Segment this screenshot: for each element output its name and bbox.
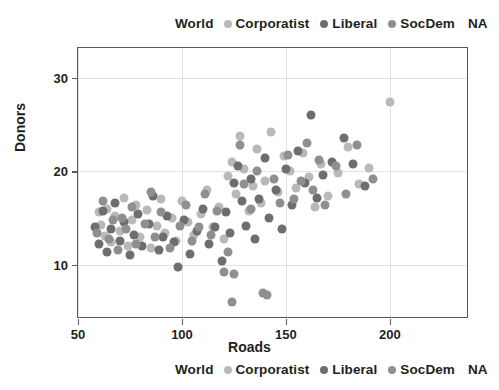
data-point [290, 195, 299, 204]
data-point [342, 189, 351, 198]
data-point [207, 230, 216, 239]
data-point [175, 221, 184, 230]
legend-label-corporatist: Corporatist [236, 16, 310, 31]
legend-swatch-liberal-bottom [320, 366, 328, 374]
y-axis-tick [72, 171, 78, 172]
data-point [130, 230, 139, 239]
data-point [225, 229, 234, 238]
data-point [219, 268, 228, 277]
data-point [186, 249, 195, 258]
data-point [105, 234, 114, 243]
legend-title-bottom: World [175, 362, 214, 377]
data-point [348, 159, 357, 168]
data-point [238, 197, 247, 206]
data-point [173, 262, 182, 271]
data-point [234, 161, 243, 170]
data-point [385, 98, 394, 107]
x-axis-title: Roads [0, 339, 499, 355]
legend-swatch-corporatist-bottom [224, 366, 232, 374]
legend-label-na-bottom: NA [468, 362, 488, 377]
data-point [315, 156, 324, 165]
y-axis-tick-label: 10 [54, 257, 68, 272]
data-point [309, 186, 318, 195]
data-point [213, 206, 222, 215]
x-axis-tick [182, 319, 183, 325]
data-point [294, 146, 303, 155]
data-point [263, 290, 272, 299]
data-point [236, 131, 245, 140]
data-point [98, 206, 107, 215]
data-point [217, 257, 226, 266]
y-axis-tick [72, 78, 78, 79]
legend-swatch-corporatist [224, 20, 232, 28]
legend-label-liberal: Liberal [332, 16, 377, 31]
data-point [306, 111, 315, 120]
data-point [311, 202, 320, 211]
data-point [132, 240, 141, 249]
data-points-layer [78, 48, 467, 317]
legend-item-socdem-bottom[interactable]: SocDem [388, 362, 455, 377]
x-axis-tick [286, 319, 287, 325]
legend-item-liberal-bottom[interactable]: Liberal [320, 362, 377, 377]
plot-area: 10203050100150200 [77, 47, 468, 318]
legend-swatch-liberal [320, 20, 328, 28]
data-point [155, 245, 164, 254]
data-point [134, 210, 143, 219]
data-point [261, 154, 270, 163]
data-point [157, 195, 166, 204]
data-point [98, 197, 107, 206]
data-point [92, 229, 101, 238]
data-point [319, 171, 328, 180]
data-point [277, 225, 286, 234]
data-point [254, 195, 263, 204]
data-point [240, 180, 249, 189]
legend-item-corporatist[interactable]: Corporatist [224, 16, 310, 31]
data-point [111, 199, 120, 208]
data-point [198, 204, 207, 213]
data-point [103, 247, 112, 256]
scatter-plot-figure: World Corporatist Liberal SocDem NA Dono… [0, 0, 499, 390]
data-point [205, 240, 214, 249]
data-point [250, 234, 259, 243]
x-axis-tick [78, 319, 79, 325]
data-point [281, 165, 290, 174]
data-point [121, 225, 130, 234]
data-point [267, 128, 276, 137]
data-point [323, 191, 332, 200]
data-point [271, 186, 280, 195]
legend-label-na: NA [468, 16, 488, 31]
data-point [275, 199, 284, 208]
data-point [119, 193, 128, 202]
data-point [229, 270, 238, 279]
data-point [223, 247, 232, 256]
legend-label-socdem: SocDem [400, 16, 455, 31]
data-point [269, 174, 278, 183]
y-axis-title: Donors [12, 103, 28, 152]
data-point [284, 150, 293, 159]
y-axis-tick-label: 30 [54, 70, 68, 85]
legend-top: World Corporatist Liberal SocDem NA [175, 16, 488, 31]
data-point [246, 204, 255, 213]
legend-item-socdem[interactable]: SocDem [388, 16, 455, 31]
y-axis-tick-label: 20 [54, 164, 68, 179]
legend-item-corporatist-bottom[interactable]: Corporatist [224, 362, 310, 377]
data-point [221, 208, 230, 217]
data-point [302, 139, 311, 148]
data-point [242, 221, 251, 230]
data-point [159, 232, 168, 241]
data-point [107, 225, 116, 234]
y-axis-tick [72, 265, 78, 266]
legend-swatch-socdem-bottom [388, 366, 396, 374]
data-point [157, 208, 166, 217]
data-point [117, 214, 126, 223]
data-point [352, 141, 361, 150]
legend-label-liberal-bottom: Liberal [332, 362, 377, 377]
data-point [182, 200, 191, 209]
data-point [265, 214, 274, 223]
data-point [236, 141, 245, 150]
legend-title: World [175, 16, 214, 31]
legend-item-liberal[interactable]: Liberal [320, 16, 377, 31]
data-point [365, 163, 374, 172]
data-point [331, 161, 340, 170]
data-point [229, 178, 238, 187]
